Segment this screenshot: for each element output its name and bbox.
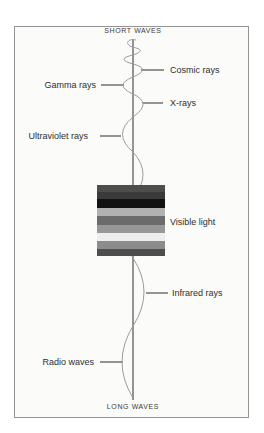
visible-light-block xyxy=(97,185,165,256)
visible-light-label: Visible light xyxy=(170,217,215,227)
spectrum-stripe xyxy=(97,225,165,233)
spectrum-stripe xyxy=(97,249,165,256)
spectrum-stripe xyxy=(97,185,165,192)
spectrum-stripe xyxy=(97,199,165,208)
cosmic-rays-label: Cosmic rays xyxy=(170,65,220,75)
spectrum-stripe xyxy=(97,241,165,249)
gamma-rays-label: Gamma rays xyxy=(0,80,96,90)
spectrum-stripe xyxy=(97,216,165,225)
long-waves-label: LONG WAVES xyxy=(73,403,193,411)
infrared-rays-label: Infrared rays xyxy=(172,288,223,298)
short-waves-label: SHORT WAVES xyxy=(73,27,193,35)
ultraviolet-rays-label: Ultraviolet rays xyxy=(0,131,88,141)
radio-waves-label: Radio waves xyxy=(0,357,94,367)
spectrum-stripe xyxy=(97,233,165,241)
figure-page: SHORT WAVES Cosmic rays Gamma rays X-ray… xyxy=(0,0,264,433)
spectrum-stripe xyxy=(97,208,165,216)
spectrum-stripe xyxy=(97,192,165,199)
x-rays-label: X-rays xyxy=(170,98,196,108)
